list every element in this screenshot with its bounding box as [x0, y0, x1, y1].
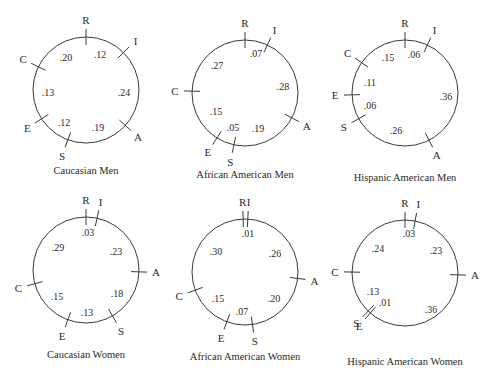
riasec-panel: RIASEC.07.27.28.15.05.19African American…	[171, 17, 310, 180]
arc-distance-value: .36	[440, 91, 453, 102]
arc-distance-value: .01	[242, 228, 255, 239]
arc-distance-value: .30	[210, 246, 223, 257]
type-label-i: I	[433, 24, 437, 36]
type-label-r: R	[239, 196, 247, 208]
type-tick-mark	[352, 115, 366, 123]
type-label-s: S	[227, 156, 233, 168]
type-tick-mark	[65, 312, 71, 327]
type-label-s: S	[118, 325, 124, 337]
type-label-a: A	[311, 275, 319, 287]
type-tick-mark	[425, 133, 432, 147]
type-tick-mark	[213, 131, 222, 145]
riasec-circle-figure: RIASEC.12.20.13.24.12.19Caucasian MenRIA…	[0, 0, 487, 373]
hexagon-circle	[192, 40, 298, 146]
type-label-r: R	[82, 14, 90, 26]
type-tick-mark	[424, 38, 431, 53]
type-tick-mark	[344, 95, 360, 96]
arc-distance-value: .19	[252, 123, 265, 134]
type-label-i: I	[247, 196, 251, 208]
type-label-i: I	[99, 196, 103, 208]
arc-distance-value: .12	[58, 117, 71, 128]
panels-group: RIASEC.12.20.13.24.12.19Caucasian MenRIA…	[15, 14, 479, 367]
type-tick-mark	[243, 211, 244, 227]
type-tick-mark	[131, 272, 147, 273]
type-tick-mark	[285, 114, 299, 122]
type-label-a: A	[134, 131, 142, 143]
arc-distance-value: .36	[425, 304, 438, 315]
riasec-panel: RIASEC.15.06.11.36.06.26Hispanic America…	[332, 17, 458, 183]
type-label-c: C	[15, 282, 22, 294]
type-label-e: E	[332, 89, 339, 101]
type-tick-mark	[355, 58, 368, 67]
arc-distance-value: .15	[210, 106, 223, 117]
arc-distance-value: .26	[390, 125, 403, 136]
arc-distance-value: .03	[82, 227, 95, 238]
arc-distance-value: .28	[277, 81, 290, 92]
arc-distance-value: .13	[81, 307, 94, 318]
type-label-s: S	[252, 335, 258, 347]
arc-distance-value: .20	[60, 52, 73, 63]
arc-distance-value: .18	[111, 288, 124, 299]
arc-distance-value: .06	[364, 100, 377, 111]
arc-distance-value: .13	[367, 286, 380, 297]
arc-distance-value: .03	[403, 228, 416, 239]
panel-title: African American Women	[190, 351, 301, 362]
type-label-r: R	[401, 197, 409, 209]
type-label-s: S	[59, 150, 65, 162]
arc-distance-value: .15	[382, 52, 395, 63]
arc-distance-value: .29	[52, 242, 65, 253]
arc-distance-value: .06	[408, 49, 421, 60]
arc-distance-value: .07	[236, 306, 249, 317]
type-label-e: E	[24, 122, 31, 134]
arc-distance-value: .27	[211, 60, 224, 71]
panel-title: Caucasian Women	[47, 349, 126, 360]
type-tick-mark	[224, 314, 230, 329]
arc-distance-value: .12	[94, 49, 107, 60]
type-label-e: E	[59, 330, 66, 342]
type-label-a: A	[152, 266, 160, 278]
type-label-i: I	[417, 198, 421, 210]
arc-distance-value: .23	[110, 246, 123, 257]
type-label-i: I	[134, 35, 138, 47]
riasec-panel: RIASEC.03.24.23.13.01.36Hispanic America…	[331, 197, 479, 367]
type-tick-mark	[450, 275, 466, 276]
type-tick-mark	[247, 211, 248, 227]
arc-distance-value: .26	[269, 248, 282, 259]
type-label-c: C	[331, 266, 338, 278]
arc-distance-value: .01	[379, 297, 392, 308]
type-label-s: S	[341, 121, 347, 133]
arc-distance-value: .24	[372, 243, 385, 254]
riasec-panel: RIASEC.01.30.26.15.20.07African American…	[176, 196, 319, 362]
type-label-c: C	[19, 53, 26, 65]
type-tick-mark	[264, 38, 271, 53]
type-label-r: R	[401, 17, 409, 29]
type-label-c: C	[344, 47, 351, 59]
panel-title: African American Men	[196, 169, 294, 180]
riasec-panel: RIASEC.12.20.13.24.12.19Caucasian Men	[19, 14, 142, 176]
arc-distance-value: .13	[42, 87, 55, 98]
type-label-e: E	[356, 320, 363, 332]
panel-title: Hispanic American Men	[354, 172, 457, 183]
type-label-e: E	[205, 146, 212, 158]
panel-title: Caucasian Men	[53, 165, 119, 176]
arc-distance-value: .23	[430, 245, 443, 256]
riasec-panel: RIASEC.03.29.23.18.15.13Caucasian Women	[15, 194, 160, 360]
arc-distance-value: .20	[268, 293, 281, 304]
arc-distance-value: .15	[51, 291, 64, 302]
type-tick-mark	[35, 115, 49, 124]
panel-title: Hispanic American Women	[347, 356, 463, 367]
arc-distance-value: .07	[250, 48, 263, 59]
type-label-r: R	[82, 194, 90, 206]
type-tick-mark	[109, 309, 117, 323]
type-label-e: E	[218, 332, 225, 344]
type-tick-mark	[184, 91, 200, 92]
type-label-i: I	[273, 24, 277, 36]
arc-distance-value: .24	[118, 87, 131, 98]
type-tick-mark	[65, 132, 71, 147]
type-label-a: A	[471, 269, 479, 281]
type-label-c: C	[176, 290, 183, 302]
arc-distance-value: .05	[227, 122, 240, 133]
arc-distance-value: .19	[92, 122, 105, 133]
arc-distance-value: .11	[364, 77, 376, 88]
type-label-r: R	[241, 17, 249, 29]
